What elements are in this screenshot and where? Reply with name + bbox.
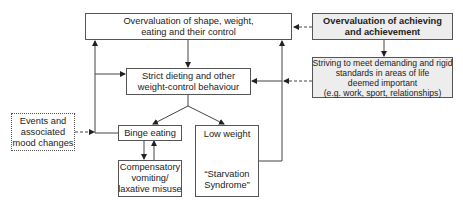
node-text: associated — [21, 127, 65, 138]
node-text: Striving to meet demanding and rigid — [313, 58, 453, 68]
node-compensatory: Compensatory vomiting/ laxative misuse — [118, 160, 182, 197]
node-text: laxative misuse — [118, 184, 182, 195]
node-text: and achievement — [345, 27, 420, 38]
node-text: (e.g. work, sport, relationships) — [324, 88, 442, 98]
node-title: Low weight — [204, 129, 251, 140]
arrow-dieting-to-binge — [153, 106, 188, 124]
node-text: Overvaluation of shape, weight, — [123, 16, 253, 27]
node-text: mood changes — [13, 138, 74, 149]
node-text: Binge eating — [124, 128, 176, 139]
node-strict-dieting: Strict dieting and other weight-control … — [126, 68, 251, 95]
node-overvaluation-shape: Overvaluation of shape, weight, eating a… — [85, 13, 292, 40]
node-text: “Starvation — [205, 169, 250, 180]
node-events: Events and associated mood changes — [11, 113, 75, 151]
node-striving: Striving to meet demanding and rigid sta… — [312, 57, 453, 98]
node-text: standards in areas of life — [336, 68, 430, 78]
node-text: Strict dieting and other — [142, 71, 235, 82]
starvation-text: “Starvation Syndrome” — [204, 169, 249, 191]
node-text: vomiting/ — [131, 173, 168, 184]
node-text: eating and their control — [141, 27, 236, 38]
node-overvaluation-achieving: Overvaluation of achieving and achieveme… — [312, 13, 453, 40]
node-binge-eating: Binge eating — [118, 125, 182, 141]
node-text: deemed important — [348, 78, 417, 88]
node-text: weight-control behaviour — [138, 82, 239, 93]
node-text: Overvaluation of achieving — [323, 16, 442, 27]
arrow-dieting-to-lowweight — [188, 106, 224, 124]
node-low-weight: Low weight “Starvation Syndrome” — [195, 125, 259, 197]
node-text: Compensatory — [120, 162, 180, 173]
node-text: Events and — [20, 116, 67, 127]
node-text: Syndrome” — [204, 180, 249, 191]
